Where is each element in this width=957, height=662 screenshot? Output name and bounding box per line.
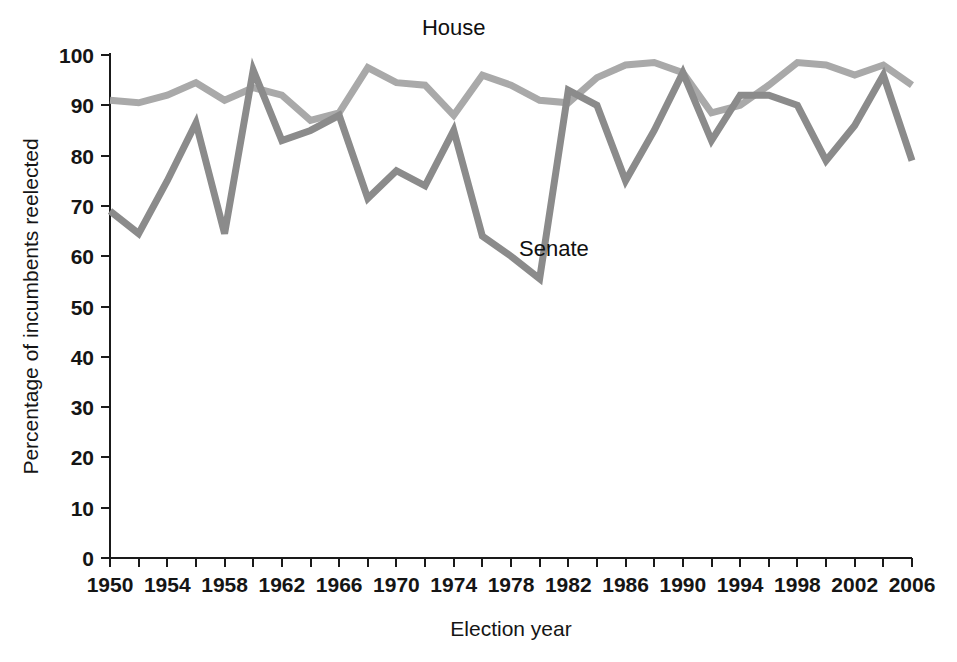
y-tick-label: 30 [71,396,94,419]
y-tick-label: 50 [71,296,94,319]
series-label-senate: Senate [519,236,589,261]
x-tick-label: 1962 [258,573,305,596]
y-tick-label: 90 [71,94,94,117]
y-tick-label: 80 [71,145,94,168]
x-tick-label: 1982 [545,573,592,596]
y-tick-label: 100 [59,44,94,67]
x-axis-ticks: 1950195419581962196619701974197819821986… [87,558,936,596]
x-tick-label: 1986 [602,573,649,596]
x-tick-label: 1970 [373,573,420,596]
x-tick-label: 1978 [488,573,535,596]
y-tick-label: 40 [71,346,94,369]
y-tick-label: 20 [71,446,94,469]
x-tick-label: 1974 [430,573,477,596]
line-chart: 0102030405060708090100 19501954195819621… [0,0,957,662]
x-tick-label: 1990 [659,573,706,596]
x-axis-title: Election year [450,617,571,640]
x-tick-label: 1998 [774,573,821,596]
y-tick-label: 70 [71,195,94,218]
series-line-house [110,63,912,121]
series-label-house: House [422,15,486,40]
x-tick-label: 2006 [889,573,936,596]
x-tick-label: 1966 [316,573,363,596]
y-tick-label: 0 [82,547,94,570]
y-tick-label: 60 [71,245,94,268]
series-lines [110,63,912,279]
y-tick-label: 10 [71,497,94,520]
y-axis-title: Percentage of incumbents reelected [19,138,42,474]
y-axis-ticks: 0102030405060708090100 [59,44,110,570]
x-tick-label: 1950 [87,573,134,596]
x-tick-label: 2002 [831,573,878,596]
x-tick-label: 1958 [201,573,248,596]
x-tick-label: 1994 [717,573,764,596]
chart-figure: 0102030405060708090100 19501954195819621… [0,0,957,662]
x-tick-label: 1954 [144,573,191,596]
